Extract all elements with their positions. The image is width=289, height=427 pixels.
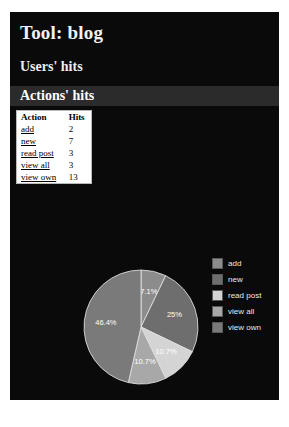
- pie-chart: 7.1%25%10.7%10.7%46.4%: [82, 268, 200, 386]
- pie-slice-label: 10.7%: [155, 347, 177, 356]
- column-header-hits: Hits: [66, 111, 92, 124]
- table-cell-hits: 2: [66, 123, 92, 135]
- pie-slice-label: 10.7%: [134, 357, 156, 366]
- table-row: view own13: [17, 171, 92, 184]
- legend-item: view own: [212, 320, 278, 334]
- table-row: add2: [17, 123, 92, 135]
- legend-item: read post: [212, 288, 278, 302]
- legend-item-label: new: [228, 275, 243, 284]
- actions-hits-table: Action Hits add2new7read post3view all3v…: [16, 110, 92, 184]
- action-link[interactable]: read post: [21, 148, 54, 158]
- table-cell-hits: 3: [66, 147, 92, 159]
- table-cell-action: view all: [17, 159, 66, 171]
- action-link[interactable]: add: [21, 124, 34, 134]
- section-heading-actions-hits[interactable]: Actions' hits: [20, 88, 94, 104]
- pie-slice-label: 7.1%: [140, 287, 157, 296]
- pie-chart-area: 7.1%25%10.7%10.7%46.4% addnewread postvi…: [10, 240, 279, 400]
- legend-item-label: read post: [228, 291, 261, 300]
- legend-swatch-icon: [212, 274, 223, 285]
- section-heading-users-hits[interactable]: Users' hits: [20, 59, 83, 75]
- legend-swatch-icon: [212, 290, 223, 301]
- table-cell-hits: 13: [66, 171, 92, 184]
- table-row: view all3: [17, 159, 92, 171]
- legend-item: add: [212, 256, 278, 270]
- table-cell-hits: 3: [66, 159, 92, 171]
- page-title: Tool: blog: [20, 22, 103, 44]
- table-row: read post3: [17, 147, 92, 159]
- legend-swatch-icon: [212, 322, 223, 333]
- table-cell-action: add: [17, 123, 66, 135]
- legend-swatch-icon: [212, 258, 223, 269]
- report-page: Tool: blog Users' hits Actions' hits Act…: [10, 12, 279, 400]
- legend-item-label: view all: [228, 307, 254, 316]
- legend-item: view all: [212, 304, 278, 318]
- pie-chart-svg: 7.1%25%10.7%10.7%46.4%: [82, 268, 200, 386]
- action-link[interactable]: view own: [21, 172, 56, 182]
- legend-swatch-icon: [212, 306, 223, 317]
- column-header-action: Action: [17, 111, 66, 124]
- chart-legend: addnewread postview allview own: [212, 256, 278, 336]
- action-link[interactable]: new: [21, 136, 36, 146]
- pie-slice-label: 25%: [167, 310, 182, 319]
- action-link[interactable]: view all: [21, 160, 50, 170]
- table-cell-hits: 7: [66, 135, 92, 147]
- legend-item-label: add: [228, 259, 241, 268]
- table-header-row: Action Hits: [17, 111, 92, 124]
- table-cell-action: view own: [17, 171, 66, 184]
- pie-slice-label: 46.4%: [95, 318, 117, 327]
- table-cell-action: read post: [17, 147, 66, 159]
- table-row: new7: [17, 135, 92, 147]
- legend-item: new: [212, 272, 278, 286]
- table-cell-action: new: [17, 135, 66, 147]
- legend-item-label: view own: [228, 323, 261, 332]
